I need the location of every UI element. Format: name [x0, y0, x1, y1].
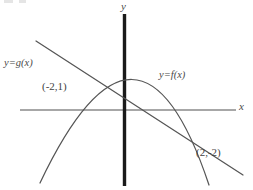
x-axis-label: x [239, 101, 244, 112]
point-label-left: (-2,1) [42, 81, 67, 92]
curve-label-g: y=g(x) [4, 58, 33, 69]
curve-label-f: y=f(x) [159, 70, 185, 81]
y-axis-label: y [121, 1, 126, 12]
scan-artifact-mark [19, 0, 26, 3]
graph-canvas [0, 0, 253, 190]
scan-artifact-mark [4, 0, 13, 3]
point-label-right: (2,-2) [196, 147, 221, 158]
math-graph-figure: y=g(x) y=f(x) (-2,1) (2,-2) y x [0, 0, 253, 190]
